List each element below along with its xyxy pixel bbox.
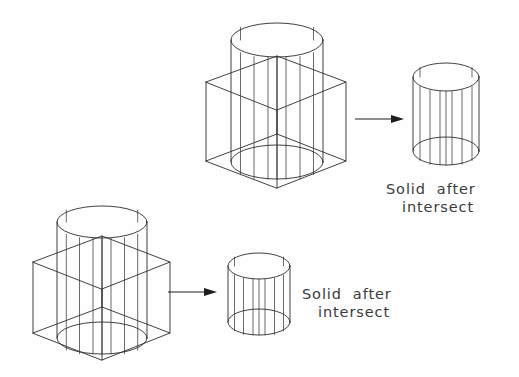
cylinder-wireframe-top [231,23,323,179]
box-cylinder-intersection-top [206,23,346,188]
box-wireframe-bottom [33,236,170,360]
caption-bottom-line2: intersect [318,304,390,320]
caption-top-line2: intersect [402,199,474,215]
result-cylinder-bottom [228,253,290,335]
box-wireframe-top [206,56,346,188]
result-cylinder-top [413,63,479,165]
box-cylinder-intersection-bottom [33,206,170,360]
caption-top-line1: Solid after [386,181,476,197]
csg-intersect-figure: Solid after intersect [0,0,519,377]
cylinder-wireframe-bottom [57,206,147,354]
arrow-top [355,115,404,123]
caption-bottom-line1: Solid after [302,286,392,302]
arrow-bottom [168,288,217,296]
diagram-canvas: Solid after intersect [0,0,519,377]
